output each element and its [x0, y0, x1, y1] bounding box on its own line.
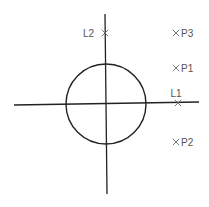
- point-l1-label: L1: [170, 88, 182, 99]
- point-l2-label: L2: [83, 28, 95, 39]
- x-marker-icon: [173, 30, 179, 36]
- point-p2-label: P2: [181, 137, 194, 148]
- x-marker-icon: [173, 65, 179, 71]
- point-p3: P3: [173, 28, 194, 39]
- point-p3-label: P3: [181, 28, 194, 39]
- x-marker-icon: [173, 139, 179, 145]
- point-l1: L1: [170, 88, 182, 106]
- point-p2: P2: [173, 137, 194, 148]
- diagram-canvas: L1 L2 P1 P2 P3: [0, 0, 209, 207]
- point-p1-label: P1: [181, 63, 194, 74]
- point-p1: P1: [173, 63, 194, 74]
- point-l2: L2: [83, 28, 108, 39]
